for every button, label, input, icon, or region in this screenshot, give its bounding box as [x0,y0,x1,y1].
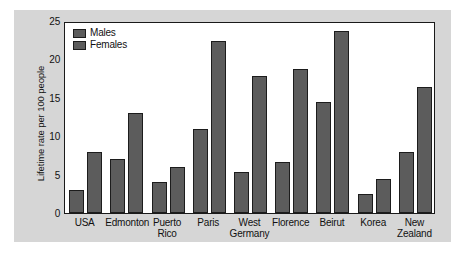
x-tick-label: Puerto Rico [146,217,187,239]
bar-series-container [65,23,434,213]
y-axis-title: Lifetime rate per 100 people [35,34,46,214]
bar-males [316,102,331,213]
x-tick-label: USA [64,217,105,228]
y-tick-label: 20 [49,55,60,65]
bar-males [234,172,249,213]
bar-group [147,23,188,213]
bar-group [395,23,436,213]
x-tick-label: Korea [353,217,394,228]
bar-group [354,23,395,213]
bar-females [293,69,308,213]
bar-females [376,179,391,213]
bar-males [152,182,167,213]
x-axis: USAEdmontonPuerto RicoParisWest GermanyF… [64,216,435,246]
bar-group [65,23,106,213]
bar-females [170,167,185,213]
bar-males [358,194,373,213]
bar-females [334,31,349,213]
bar-females [128,113,143,213]
bar-group [271,23,312,213]
y-tick-label: 5 [55,171,60,181]
bar-males [399,152,414,213]
plot-area: Males Females [64,22,435,214]
bar-males [69,190,84,213]
bar-group [106,23,147,213]
bar-group [230,23,271,213]
bar-males [275,162,290,213]
x-tick-label: Paris [188,217,229,228]
figure-background: Lifetime rate per 100 people 0510152025 … [14,10,451,242]
bar-females [87,152,102,213]
x-tick-label: Beirut [311,217,352,228]
bar-females [417,87,432,213]
x-tick-label: West Germany [229,217,270,239]
bar-males [110,159,125,213]
bar-group [189,23,230,213]
y-axis: Lifetime rate per 100 people 0510152025 [14,22,64,214]
bar-females [211,41,226,213]
y-tick-label: 10 [49,132,60,142]
x-tick-label: Florence [270,217,311,228]
y-tick-label: 0 [55,209,60,219]
x-tick-label: Edmonton [105,217,146,228]
y-tick-label: 25 [49,17,60,27]
bar-females [252,76,267,213]
x-tick-label: New Zealand [394,217,435,239]
bar-males [193,129,208,213]
bar-group [312,23,353,213]
y-tick-label: 15 [49,94,60,104]
